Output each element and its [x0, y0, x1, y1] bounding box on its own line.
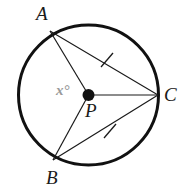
chord-bc-segment: [53, 95, 158, 160]
vertex-label-c: C: [164, 85, 177, 104]
angle-measure-label-x: x°: [56, 83, 70, 98]
vertex-label-a: A: [36, 4, 48, 23]
circle-geometry-figure: A B C P x°: [0, 0, 190, 192]
vertex-label-b: B: [46, 168, 58, 187]
geometry-canvas: [0, 0, 190, 192]
tick-mark-chord-bc-icon: [104, 124, 116, 138]
center-label-p: P: [85, 101, 97, 120]
radius-pb-segment: [53, 95, 89, 160]
